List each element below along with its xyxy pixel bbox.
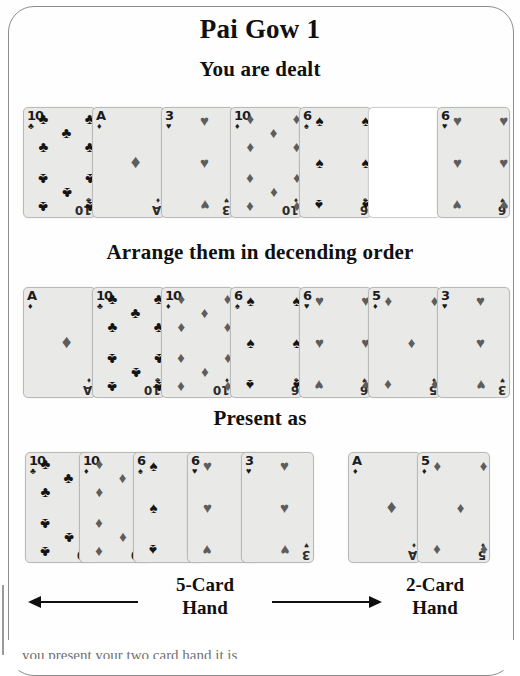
card-suit-index-hearts-icon: ♥ [442,122,447,131]
card-pip-diamonds-icon: ♦ [429,542,445,557]
card-pip-area: ♦ [364,459,419,558]
playing-card-3-of-hearts[interactable]: 3♥3♥♥♥♥ [241,452,314,563]
sorted-card-row: A♦A♦♦10♣10♣♣♣♣♣♣♣♣♣♣♣10♦10♦♦♦♦♦♦♦♦♦♦♦6♠6… [23,287,501,399]
card-suit-index-hearts-icon: ♥ [192,467,197,476]
card-pip-area: ♦ [39,294,94,393]
five-card-hand-label-line1: 5-Card [150,573,260,596]
card-pip-spades-icon: ♠ [242,377,258,392]
playing-card-6-of-spades[interactable]: 6♠6♠♠♠♠♠♠♠ [230,287,303,398]
card-pip-clubs-icon: ♣ [37,457,53,472]
card-pip-diamonds-icon: ♦ [429,459,445,474]
playing-card-5-of-diamonds[interactable]: 5♦5♦♦♦♦♦♦ [368,287,441,398]
card-pip-hearts-icon: ♥ [311,336,327,351]
card-pip-clubs-icon: ♣ [35,112,51,127]
playing-card-6-of-hearts[interactable]: 6♥6♥♥♥♥♥♥♥ [437,107,510,218]
card-pip-diamonds-icon: ♦ [476,459,490,474]
card-pip-diamonds-icon: ♦ [91,485,107,500]
playing-card-10-of-clubs[interactable]: 10♣10♣♣♣♣♣♣♣♣♣♣♣ [92,287,165,398]
card-pip-clubs-icon: ♣ [37,544,53,559]
card-pip-diamonds-icon: ♦ [91,457,107,472]
playing-card-6-of-spades[interactable]: 6♠6♠♠♠♠♠♠♠ [299,107,372,218]
card-pip-hearts-icon: ♥ [199,542,215,557]
cut-off-body-text: you present your two card hand it is [22,648,500,659]
card-pip-area: ♠♠♠♠♠♠ [246,294,301,393]
card-pip-area: ♥♥♥ [257,459,312,558]
playing-card-blank[interactable] [368,107,441,218]
card-pip-diamonds-icon: ♦ [476,542,490,557]
card-pip-diamonds-icon: ♦ [242,140,258,155]
card-pip-area: ♥♥♥ [453,294,508,393]
two-card-hand-label-line2: Hand [380,596,490,619]
card-pip-hearts-icon: ♥ [277,542,293,557]
card-pip-area: ♦♦♦♦♦♦♦♦♦♦ [246,114,301,213]
card-pip-diamonds-icon: ♦ [91,516,107,531]
card-pip-clubs-icon: ♣ [104,351,120,366]
card-suit-index-hearts-icon: ♥ [166,122,171,131]
card-pip-hearts-icon: ♥ [473,294,489,309]
card-pip-diamonds-icon: ♦ [126,154,146,169]
card-pip-clubs-icon: ♣ [35,171,51,186]
card-suit-index-diamonds-icon: ♦ [97,122,102,131]
card-suit-index-hearts-icon: ♥ [442,302,447,311]
card-pip-area: ♠♠♠♠♠♠ [315,114,370,213]
card-pip-hearts-icon: ♥ [199,501,215,516]
card-pip-area: ♣♣♣♣♣♣♣♣♣♣ [108,294,163,393]
card-pip-spades-icon: ♠ [145,459,161,474]
card-pip-area: ♥♥♥♥♥♥ [315,294,370,393]
page-title: Pai Gow 1 [0,14,520,45]
card-pip-diamonds-icon: ♦ [404,336,420,351]
card-pip-clubs-icon: ♣ [35,199,51,214]
playing-card-6-of-hearts[interactable]: 6♥6♥♥♥♥♥♥♥ [299,287,372,398]
card-pip-spades-icon: ♠ [145,542,161,557]
card-pip-diamonds-icon: ♦ [266,185,282,200]
card-pip-area: ♥♥♥ [177,114,232,213]
card-pip-diamonds-icon: ♦ [242,112,258,127]
five-card-hand-row: 10♣10♣♣♣♣♣♣♣♣♣♣♣10♦10♦♦♦♦♦♦♦♦♦♦♦6♠6♠♠♠♠♠… [25,452,325,564]
two-card-hand-label: 2-Card Hand [380,573,490,619]
card-suit-index-diamonds-icon: ♦ [353,467,358,476]
playing-card-3-of-hearts[interactable]: 3♥3♥♥♥♥ [437,287,510,398]
card-suit-index-diamonds-icon: ♦ [166,302,171,311]
card-pip-clubs-icon: ♣ [104,320,120,335]
card-pip-clubs-icon: ♣ [61,471,77,486]
card-suit-index-clubs-icon: ♣ [97,302,103,311]
card-pip-area: ♦♦♦♦♦ [384,294,439,393]
playing-card-a-of-diamonds[interactable]: A♦A♦♦ [92,107,165,218]
card-pip-hearts-icon: ♥ [473,377,489,392]
playing-card-a-of-diamonds[interactable]: A♦A♦♦ [348,452,421,563]
card-pip-clubs-icon: ♣ [59,126,75,141]
playing-card-a-of-diamonds[interactable]: A♦A♦♦ [23,287,96,398]
card-pip-clubs-icon: ♣ [37,516,53,531]
five-card-hand-label: 5-Card Hand [150,573,260,619]
two-card-hand-label-line1: 2-Card [380,573,490,596]
arrow-right-shaft [272,601,372,603]
card-pip-diamonds-icon: ♦ [115,530,131,545]
playing-card-10-of-diamonds[interactable]: 10♦10♦♦♦♦♦♦♦♦♦♦♦ [230,107,303,218]
card-pip-hearts-icon: ♥ [277,501,293,516]
card-pip-diamonds-icon: ♦ [91,544,107,559]
card-suit-index-diamonds-icon: ♦ [84,467,89,476]
playing-card-10-of-diamonds[interactable]: 10♦10♦♦♦♦♦♦♦♦♦♦♦ [161,287,234,398]
playing-card-3-of-hearts[interactable]: 3♥3♥♥♥♥ [161,107,234,218]
card-pip-area: ♣♣♣♣♣♣♣♣♣♣ [39,114,94,213]
card-pip-diamonds-icon: ♦ [115,471,131,486]
card-pip-clubs-icon: ♣ [128,365,144,380]
section-heading-arrange: Arrange them in decending order [0,240,520,265]
playing-card-10-of-clubs[interactable]: 10♣10♣♣♣♣♣♣♣♣♣♣♣ [23,107,96,218]
card-suit-index-spades-icon: ♠ [138,467,143,476]
card-pip-diamonds-icon: ♦ [173,292,189,307]
card-pip-clubs-icon: ♣ [59,185,75,200]
card-suit-index-diamonds-icon: ♦ [422,467,427,476]
card-pip-hearts-icon: ♥ [449,197,465,212]
card-pip-diamonds-icon: ♦ [380,294,396,309]
card-pip-clubs-icon: ♣ [104,379,120,394]
card-pip-hearts-icon: ♥ [311,377,327,392]
card-pip-diamonds-icon: ♦ [453,501,469,516]
card-suit-index-spades-icon: ♠ [235,302,240,311]
section-heading-present: Present as [0,406,520,431]
card-pip-hearts-icon: ♥ [449,156,465,171]
playing-card-5-of-diamonds[interactable]: 5♦5♦♦♦♦♦♦ [417,452,490,563]
card-pip-spades-icon: ♠ [145,501,161,516]
card-pip-clubs-icon: ♣ [35,140,51,155]
